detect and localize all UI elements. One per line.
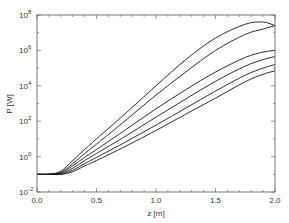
y-tick-labels: 10-2100102104106108 [19,9,34,197]
y-tick-exponent: 2 [28,115,32,121]
x-tick-labels: 0.00.51.01.52.0 [31,196,281,205]
line-chart: 0.00.51.01.52.0 10-2100102104106108 z [m… [0,0,289,223]
x-tick-label: 1.0 [150,196,162,205]
x-tick-label: 0.5 [91,196,103,205]
x-tick-label: 2.0 [269,196,281,205]
y-tick-exponent: 0 [28,151,32,157]
x-tick-label: 1.5 [210,196,222,205]
x-axis-label: z [m] [147,209,164,218]
y-tick-exponent: 4 [28,80,32,86]
y-tick-exponent: -2 [28,186,34,192]
y-tick-exponent: 6 [28,44,32,50]
x-tick-label: 0.0 [31,196,43,205]
y-tick-exponent: 8 [28,9,32,15]
series-line-2 [37,26,275,175]
series-line-4 [37,57,275,175]
y-axis-label: P [W] [5,94,14,113]
data-series [37,22,275,175]
series-line-5 [37,64,275,174]
series-line-1 [37,22,275,175]
